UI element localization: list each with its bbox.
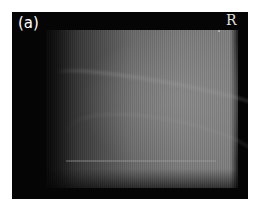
radiograph-frame xyxy=(12,12,248,199)
bone-contour-upper xyxy=(56,62,248,121)
side-marker: R xyxy=(226,12,237,28)
marker-dot xyxy=(218,30,220,32)
vignette-left xyxy=(12,12,72,199)
horizontal-line xyxy=(66,160,216,162)
radiograph-image xyxy=(46,30,238,188)
panel-label: (a) xyxy=(18,14,39,32)
